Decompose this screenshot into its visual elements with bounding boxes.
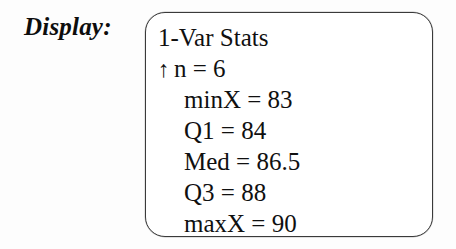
stat-q3-value: Q3 = 88 [184,177,266,208]
stat-row-med: Med = 86.5 [158,146,428,177]
stat-row-minx: minX = 83 [158,84,428,115]
calculator-screen: 1-Var Stats ↑ n = 6 minX = 83 Q1 = 84 Me… [145,12,433,237]
display-label: Display: [24,14,112,39]
calculator-screen-title: 1-Var Stats [158,22,428,53]
stat-q1-value: Q1 = 84 [184,115,266,146]
stat-row-q3: Q3 = 88 [158,177,428,208]
stat-row-q1: Q1 = 84 [158,115,428,146]
stat-n-value: n = 6 [174,53,226,84]
stat-med-value: Med = 86.5 [184,146,300,177]
stat-maxx-value: maxX = 90 [184,208,297,237]
stat-minx-value: minX = 83 [184,84,293,115]
up-arrow-icon: ↑ [158,54,174,85]
stat-row-maxx: maxX = 90 [158,208,428,237]
calculator-screen-lines: 1-Var Stats ↑ n = 6 minX = 83 Q1 = 84 Me… [158,22,428,237]
one-var-stats-title: 1-Var Stats [158,22,268,53]
stat-row-n: ↑ n = 6 [158,53,428,84]
